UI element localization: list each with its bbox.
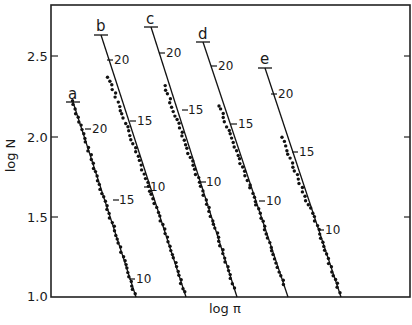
data-point-a bbox=[111, 221, 114, 224]
data-point-b bbox=[113, 95, 116, 98]
data-point-d bbox=[270, 249, 273, 252]
data-point-c bbox=[221, 248, 224, 251]
data-point-c bbox=[191, 159, 194, 162]
data-point-a bbox=[73, 107, 76, 110]
data-point-c bbox=[183, 139, 186, 142]
data-point-b bbox=[144, 177, 147, 180]
data-point-b bbox=[146, 181, 149, 184]
data-point-b bbox=[163, 227, 166, 230]
data-point-b bbox=[168, 245, 171, 248]
data-point-c bbox=[178, 126, 181, 129]
data-point-a bbox=[77, 120, 80, 123]
data-point-a bbox=[119, 245, 122, 248]
data-point-c bbox=[233, 286, 236, 289]
data-point-b bbox=[137, 155, 140, 158]
data-point-a bbox=[80, 128, 83, 131]
data-point-c bbox=[169, 97, 172, 100]
data-point-a bbox=[79, 123, 82, 126]
data-point-d bbox=[282, 279, 285, 282]
svg-text:15: 15 bbox=[137, 114, 152, 128]
data-point-e bbox=[325, 252, 328, 255]
data-point-b bbox=[108, 80, 111, 83]
data-point-d bbox=[243, 174, 246, 177]
data-point-c bbox=[172, 110, 175, 113]
y-tick-label: 1.0 bbox=[27, 289, 48, 304]
data-point-b bbox=[166, 235, 169, 238]
data-point-d bbox=[263, 228, 266, 231]
data-point-e bbox=[280, 136, 283, 139]
data-point-b bbox=[148, 190, 151, 193]
data-point-a bbox=[114, 234, 117, 237]
data-point-d bbox=[277, 270, 280, 273]
data-point-e bbox=[301, 186, 304, 189]
data-point-c bbox=[164, 89, 167, 92]
x-axis-label: log π bbox=[209, 301, 241, 316]
data-point-c bbox=[199, 185, 202, 188]
data-point-d bbox=[241, 165, 244, 168]
data-point-c bbox=[207, 210, 210, 213]
data-point-c bbox=[175, 118, 178, 121]
data-point-c bbox=[164, 84, 167, 87]
data-point-b bbox=[174, 261, 177, 264]
data-point-e bbox=[321, 241, 324, 244]
data-point-a bbox=[100, 192, 103, 195]
data-point-e bbox=[336, 282, 339, 285]
data-point-e bbox=[283, 140, 286, 143]
data-point-d bbox=[268, 241, 271, 244]
data-point-a bbox=[83, 137, 86, 140]
data-point-e bbox=[313, 215, 316, 218]
data-point-c bbox=[186, 152, 189, 155]
data-point-e bbox=[316, 224, 319, 227]
data-point-c bbox=[177, 122, 180, 125]
data-point-b bbox=[110, 83, 113, 86]
data-point-a bbox=[92, 167, 95, 170]
data-point-b bbox=[114, 91, 117, 94]
data-point-d bbox=[246, 179, 249, 182]
data-point-e bbox=[334, 278, 337, 281]
data-point-c bbox=[213, 226, 216, 229]
data-point-e bbox=[338, 291, 341, 294]
data-point-a bbox=[113, 229, 116, 232]
data-point-b bbox=[128, 134, 131, 137]
data-point-a bbox=[124, 263, 127, 266]
data-point-d bbox=[229, 132, 232, 135]
data-point-b bbox=[161, 223, 164, 226]
data-point-b bbox=[119, 109, 122, 112]
data-point-d bbox=[263, 225, 266, 228]
data-point-a bbox=[94, 170, 97, 173]
data-point-c bbox=[180, 134, 183, 137]
data-point-e bbox=[307, 203, 310, 206]
data-point-c bbox=[166, 92, 169, 95]
data-point-b bbox=[131, 142, 134, 145]
data-point-a bbox=[116, 237, 119, 240]
data-point-d bbox=[254, 200, 257, 203]
data-point-d bbox=[266, 236, 269, 239]
data-point-c bbox=[205, 203, 208, 206]
data-point-d bbox=[235, 149, 238, 152]
data-point-a bbox=[98, 188, 101, 191]
data-point-d bbox=[259, 217, 262, 220]
svg-text:20: 20 bbox=[114, 53, 129, 67]
data-point-b bbox=[151, 197, 154, 200]
data-point-d bbox=[238, 157, 241, 160]
data-point-e bbox=[323, 249, 326, 252]
data-point-b bbox=[120, 112, 123, 115]
data-point-a bbox=[96, 179, 99, 182]
data-point-e bbox=[327, 257, 330, 260]
svg-text:15: 15 bbox=[188, 103, 203, 117]
data-point-b bbox=[127, 129, 130, 132]
data-point-a bbox=[105, 208, 108, 211]
data-point-e bbox=[304, 199, 307, 202]
svg-text:10: 10 bbox=[325, 223, 340, 237]
data-point-a bbox=[105, 204, 108, 207]
data-point-b bbox=[158, 214, 161, 217]
data-point-b bbox=[152, 202, 155, 205]
svg-text:15: 15 bbox=[299, 145, 314, 159]
data-point-a bbox=[134, 292, 137, 295]
data-point-e bbox=[318, 228, 321, 231]
data-point-b bbox=[157, 211, 160, 214]
data-point-c bbox=[189, 156, 192, 159]
data-point-c bbox=[229, 273, 232, 276]
data-point-b bbox=[177, 274, 180, 277]
data-point-c bbox=[205, 198, 208, 201]
